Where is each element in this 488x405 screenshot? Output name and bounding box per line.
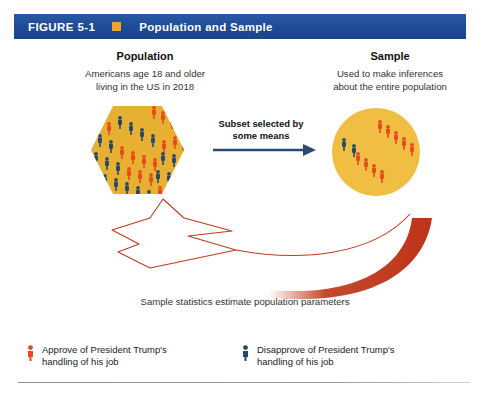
figure-title: Population and Sample [139, 21, 272, 33]
subset-arrow-icon [213, 144, 316, 156]
bottom-divider [18, 382, 470, 383]
legend-approve-line2: handling of his job [42, 356, 167, 368]
subset-label-line1: Subset selected by [205, 118, 317, 130]
legend-disapprove-line2: handling of his job [257, 356, 395, 368]
population-title: Population [50, 50, 240, 64]
person-icon [241, 345, 250, 361]
sample-subtitle-line1: Used to make inferences [300, 67, 480, 81]
subset-arrow-label: Subset selected by some means [205, 118, 317, 141]
population-subtitle-line2: living in the US in 2018 [50, 80, 240, 94]
sample-title: Sample [300, 50, 480, 64]
legend-label-disapprove: Disapprove of President Trump's handling… [257, 344, 395, 367]
inference-arrow-icon [112, 199, 432, 299]
sample-figure-cluster [342, 120, 414, 183]
legend-item-approve: Approve of President Trump's handling of… [26, 344, 241, 367]
figure-number-label: FIGURE 5-1 [28, 21, 95, 33]
population-figure-cluster [92, 106, 195, 203]
legend-approve-line1: Approve of President Trump's [42, 344, 167, 356]
sample-caption: Sample Used to make inferences about the… [300, 50, 480, 94]
legend: Approve of President Trump's handling of… [26, 344, 466, 367]
legend-label-approve: Approve of President Trump's handling of… [42, 344, 167, 367]
figure-frame: FIGURE 5-1 Population and Sample Populat… [0, 0, 488, 405]
sample-subtitle-line2: about the entire population [300, 80, 480, 94]
orange-square-icon [112, 22, 121, 31]
subset-label-line2: some means [205, 130, 317, 142]
sample-circle [332, 108, 420, 196]
legend-disapprove-line1: Disapprove of President Trump's [257, 344, 395, 356]
legend-item-disapprove: Disapprove of President Trump's handling… [241, 344, 456, 367]
population-hexagon [91, 106, 195, 203]
figure-header-bar: FIGURE 5-1 Population and Sample [14, 14, 466, 39]
person-icon [26, 345, 35, 361]
population-subtitle-line1: Americans age 18 and older [50, 67, 240, 81]
population-caption: Population Americans age 18 and older li… [50, 50, 240, 94]
inference-caption: Sample statistics estimate population pa… [100, 296, 390, 307]
